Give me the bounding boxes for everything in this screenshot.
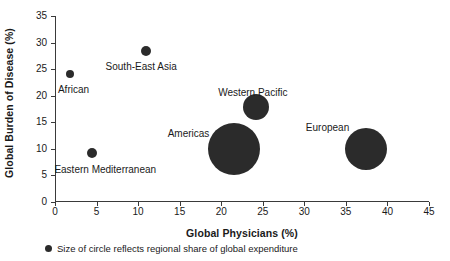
x-tick-label: 0 xyxy=(40,206,70,217)
point-label-americas: Americas xyxy=(168,128,210,139)
x-tick-label: 35 xyxy=(331,206,361,217)
y-tick-mark xyxy=(51,69,55,70)
y-tick-label: 15 xyxy=(23,116,47,127)
y-tick-label: 35 xyxy=(23,10,47,21)
y-tick-mark xyxy=(51,96,55,97)
chart-footnote-text: Size of circle reflects regional share o… xyxy=(57,243,298,254)
point-label-european: European xyxy=(306,122,349,133)
y-tick-mark xyxy=(51,149,55,150)
bubble-chart-figure: 051015202530354045 05101520253035 Africa… xyxy=(0,0,450,261)
y-axis-label: Global Burden of Disease (%) xyxy=(0,0,18,205)
y-tick-mark xyxy=(51,175,55,176)
y-axis-label-text: Global Burden of Disease (%) xyxy=(3,28,15,178)
y-tick-label: 0 xyxy=(23,196,47,207)
bubble-south-east-asia xyxy=(141,46,151,56)
bubble-european xyxy=(345,128,387,170)
y-tick-label: 25 xyxy=(23,63,47,74)
x-axis-label: Global Physicians (%) xyxy=(55,227,429,239)
x-axis-line xyxy=(55,201,429,202)
x-tick-label: 5 xyxy=(82,206,112,217)
legend-bubble-icon xyxy=(45,245,52,252)
y-tick-mark xyxy=(51,122,55,123)
bubble-african xyxy=(66,70,74,78)
x-tick-label: 10 xyxy=(123,206,153,217)
y-tick-label: 10 xyxy=(23,143,47,154)
point-label-african: African xyxy=(58,84,89,95)
x-tick-label: 40 xyxy=(372,206,402,217)
y-tick-mark xyxy=(51,16,55,17)
y-tick-label: 20 xyxy=(23,90,47,101)
point-label-south-east-asia: South-East Asia xyxy=(106,61,177,72)
y-tick-label: 30 xyxy=(23,37,47,48)
bubble-americas xyxy=(208,123,260,175)
point-label-eastern-mediterranean: Eastern Mediterranean xyxy=(54,164,156,175)
x-tick-label: 30 xyxy=(289,206,319,217)
bubble-eastern-mediterranean xyxy=(87,148,97,158)
y-tick-mark xyxy=(51,43,55,44)
point-label-western-pacific: Western Pacific xyxy=(218,87,287,98)
y-tick-mark xyxy=(51,202,55,203)
x-tick-label: 45 xyxy=(414,206,444,217)
x-tick-label: 25 xyxy=(248,206,278,217)
y-tick-label: 5 xyxy=(23,169,47,180)
chart-footnote: Size of circle reflects regional share o… xyxy=(45,243,298,254)
plot-area: 051015202530354045 05101520253035 Africa… xyxy=(0,0,450,261)
x-tick-label: 20 xyxy=(206,206,236,217)
x-tick-label: 15 xyxy=(165,206,195,217)
